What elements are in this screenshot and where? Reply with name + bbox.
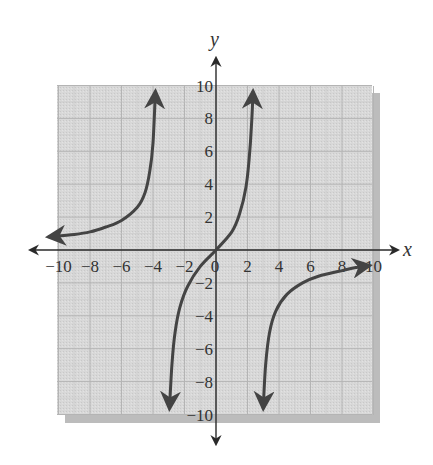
- y-tick-label: −8: [195, 373, 213, 392]
- rational-function-graph: −10−8−6−4−20246810−10−8−6−4−2246810 x y: [0, 0, 433, 465]
- x-tick-label: 6: [306, 257, 315, 276]
- x-tick-label: −10: [45, 257, 72, 276]
- y-tick-label: −6: [195, 340, 213, 359]
- x-tick-label: −4: [144, 257, 163, 276]
- x-tick-label: −2: [175, 257, 193, 276]
- y-axis-label: y: [208, 28, 219, 51]
- y-tick-label: −4: [195, 307, 214, 326]
- y-tick-label: 4: [205, 175, 214, 194]
- y-tick-label: 8: [205, 109, 214, 128]
- y-tick-label: −10: [186, 406, 213, 425]
- y-tick-label: 6: [205, 142, 214, 161]
- y-tick-label: −2: [195, 274, 213, 293]
- x-tick-label: 4: [275, 257, 284, 276]
- y-tick-label: 2: [205, 208, 214, 227]
- x-tick-label: 8: [338, 257, 347, 276]
- x-tick-label: −6: [112, 257, 130, 276]
- x-tick-label: 2: [243, 257, 252, 276]
- x-tick-label: −8: [81, 257, 99, 276]
- y-tick-label: 10: [196, 77, 213, 96]
- x-axis-label: x: [402, 238, 412, 260]
